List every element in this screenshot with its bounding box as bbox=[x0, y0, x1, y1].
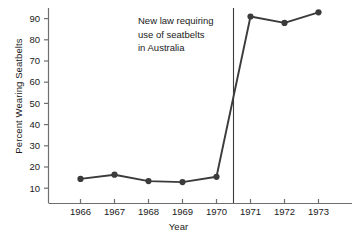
y-axis-ticks bbox=[44, 19, 49, 189]
data-point bbox=[179, 179, 185, 185]
seatbelt-usage-line-chart: 90 80 70 60 50 40 30 20 10 1966 1967 196… bbox=[0, 0, 357, 240]
data-point bbox=[111, 172, 117, 178]
data-point bbox=[281, 20, 287, 26]
data-point bbox=[247, 13, 253, 19]
data-point bbox=[213, 174, 219, 180]
y-axis-title: Percent Wearing Seatbelts bbox=[13, 0, 27, 196]
new-law-annotation: New law requiring use of seatbelts in Au… bbox=[138, 14, 214, 55]
annotation-line-2: use of seatbelts bbox=[138, 28, 214, 42]
data-point bbox=[145, 178, 151, 184]
annotation-line-1: New law requiring bbox=[138, 14, 214, 28]
x-tick-label-1973: 1973 bbox=[299, 206, 339, 218]
x-axis-ticks bbox=[81, 199, 319, 204]
annotation-line-3: in Australia bbox=[138, 41, 214, 55]
data-point bbox=[77, 176, 83, 182]
x-axis-title: Year bbox=[0, 221, 357, 232]
data-point bbox=[315, 9, 321, 15]
